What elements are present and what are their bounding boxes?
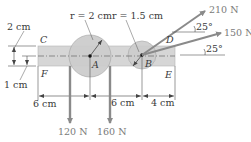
leader-2cm (12, 31, 24, 52)
label-b: B (144, 58, 152, 69)
label-dim-4cm: 4 cm (151, 97, 174, 108)
label-force-210n: 210 N (209, 4, 238, 15)
label-force-150n: 150 N (224, 27, 251, 38)
label-d: D (165, 34, 174, 45)
label-c: C (40, 34, 48, 45)
label-angle-150: 25° (206, 43, 223, 54)
label-force-120n: 120 N (58, 126, 87, 137)
label-radius-b: r = 1.5 cm (112, 10, 163, 21)
label-dim-6cm-2: 6 cm (111, 97, 134, 108)
label-a: A (91, 59, 99, 70)
label-force-160n: 160 N (97, 126, 126, 137)
statics-diagram: C F A B D E r = 2 cm r = 1.5 cm 2 cm 1 c… (0, 0, 251, 142)
point-a-dot (88, 54, 92, 58)
leader-1cm (20, 66, 27, 80)
diagram-svg: C F A B D E r = 2 cm r = 1.5 cm 2 cm 1 c… (0, 0, 251, 142)
label-radius-a: r = 2 cm (70, 10, 112, 21)
label-dim-6cm-1: 6 cm (33, 98, 56, 109)
label-dim-2cm: 2 cm (7, 21, 30, 32)
label-dim-1cm: 1 cm (4, 79, 27, 90)
label-angle-210: 25° (196, 21, 213, 32)
label-e: E (164, 69, 172, 80)
label-f: F (40, 68, 48, 79)
